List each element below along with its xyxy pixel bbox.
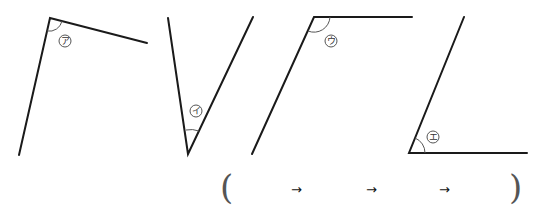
arrow-3: → bbox=[439, 183, 450, 196]
arrow-1: → bbox=[291, 183, 302, 196]
angle-e-sides bbox=[409, 17, 527, 153]
angle-e-label: エ bbox=[429, 132, 438, 142]
angle-a: ア bbox=[19, 18, 147, 155]
angle-i-arc bbox=[186, 130, 199, 131]
angle-i-sides bbox=[168, 17, 253, 154]
angle-i: イ bbox=[168, 17, 253, 154]
angle-i-label: イ bbox=[192, 106, 201, 116]
open-paren: ( bbox=[220, 170, 233, 204]
angle-u-label: ウ bbox=[327, 36, 336, 46]
angle-e: エ bbox=[409, 17, 527, 153]
angle-a-sides bbox=[19, 18, 147, 155]
angles-diagram: ア イ ウ エ bbox=[0, 0, 539, 217]
angle-u: ウ bbox=[252, 17, 412, 154]
close-paren: ) bbox=[509, 170, 522, 204]
angle-a-label: ア bbox=[61, 36, 70, 46]
angle-e-arc bbox=[415, 138, 425, 153]
arrow-2: → bbox=[366, 183, 377, 196]
